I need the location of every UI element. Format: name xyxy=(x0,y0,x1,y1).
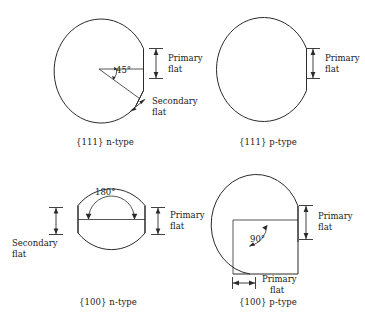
dim-arrowhead-down xyxy=(154,72,159,78)
dimension-bracket-primary xyxy=(148,44,164,84)
primary-flat-label-line1: Primary xyxy=(168,53,203,63)
caption-100-p-type: {100} p-type xyxy=(208,297,328,307)
dim-arrowhead-up xyxy=(311,49,316,55)
primary-flat-label-line2: flat xyxy=(170,221,184,231)
dim-arrowhead-up xyxy=(156,208,161,214)
secondary-flat-dimension-100-n xyxy=(48,206,78,236)
secondary-flat-label-line1: Secondary xyxy=(152,96,198,106)
angle-label-45: 45° xyxy=(116,65,131,75)
dim-arrowhead-down xyxy=(311,72,316,78)
dim-arrowhead-down xyxy=(54,228,59,234)
dim-arrowhead-up xyxy=(54,208,59,214)
secondary-flat-leader xyxy=(128,96,152,118)
secondary-flat-label-line2: flat xyxy=(12,249,26,259)
primary-flat-dimension-111-n: Primary flat xyxy=(148,44,210,84)
primary-flat-label-line2: flat xyxy=(168,64,182,74)
angle-label-90: 90° xyxy=(250,234,265,244)
dim-arrowhead-left xyxy=(233,281,239,286)
wafer-outline-100-p xyxy=(211,174,298,274)
secondary-flat-callout-111-n: Secondary flat xyxy=(128,96,218,126)
caption-111-n-type: {111} n-type xyxy=(45,137,165,147)
dimension-bracket-primary-bottom xyxy=(231,276,257,290)
dim-arrowhead-down xyxy=(156,228,161,234)
angle-arc-180 xyxy=(89,196,135,219)
dimension-bracket-primary xyxy=(150,206,166,236)
bottom-flat-label-line1: Primary xyxy=(262,274,297,284)
dim-arrowhead-right xyxy=(249,281,255,286)
wafer-outline-111-p xyxy=(217,18,307,122)
dim-arrowhead-up xyxy=(304,206,309,212)
primary-flat-label-line1: Primary xyxy=(170,210,205,220)
primary-flat-label-line1: Primary xyxy=(325,53,360,63)
angle-arc-arrowhead-right xyxy=(132,214,138,220)
angle-arc-arrowhead-left xyxy=(86,214,92,220)
dimension-bracket-secondary xyxy=(48,206,64,236)
primary-flat-label-line2: flat xyxy=(318,222,332,232)
primary-flat-dimension-100-n: Primary flat xyxy=(150,206,210,241)
caption-100-n-type: {100} n-type xyxy=(48,297,168,307)
primary-flat-dimension-100-p: Primary flat xyxy=(298,203,358,243)
bottom-flat-label-line2: flat xyxy=(270,285,284,295)
dim-arrowhead-up xyxy=(154,49,159,55)
primary-flat-label-line1: Primary xyxy=(318,211,353,221)
caption-111-p-type: {111} p-type xyxy=(208,137,328,147)
angle-label-180: 180° xyxy=(95,187,115,197)
dim-arrowhead-down xyxy=(304,233,309,239)
dimension-bracket-primary-right xyxy=(298,203,314,241)
secondary-flat-label-line1: Secondary xyxy=(12,238,58,248)
secondary-flat-label-line2: flat xyxy=(152,107,166,117)
dimension-bracket-primary xyxy=(305,44,321,84)
primary-flat-label-line2: flat xyxy=(325,64,339,74)
primary-flat-dimension-111-p: Primary flat xyxy=(305,44,365,84)
leader-arrowhead-lower xyxy=(131,107,137,111)
